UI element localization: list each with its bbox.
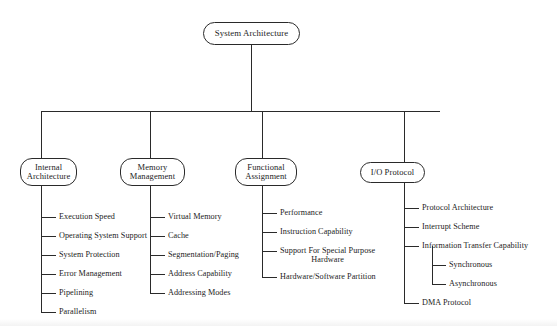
subtick-io-protocol-0 <box>432 265 446 266</box>
node-label: Memory Management <box>130 163 175 181</box>
leaf-label[interactable]: Execution Speed <box>59 212 115 221</box>
node-io-protocol[interactable]: I/O Protocol <box>360 162 425 183</box>
tick-functional-assignment-2 <box>262 251 277 252</box>
leaf-label[interactable]: Pipelining <box>59 288 93 297</box>
node-label: System Architecture <box>215 29 288 39</box>
node-system-architecture[interactable]: System Architecture <box>203 22 300 45</box>
tick-internal-architecture-3 <box>41 274 56 275</box>
tick-functional-assignment-0 <box>262 213 277 214</box>
leaf-label[interactable]: Support For Special Purpose Hardware <box>280 246 375 265</box>
leaf-label[interactable]: Performance <box>280 208 322 217</box>
scan-noise <box>0 319 557 326</box>
tick-io-protocol-3 <box>404 303 419 304</box>
leaf-label[interactable]: Parallelism <box>59 307 96 316</box>
node-label: Internal Architecture <box>27 163 71 181</box>
tick-io-protocol-0 <box>404 208 419 209</box>
sub-leaf-label[interactable]: Asynchronous <box>449 279 497 288</box>
tick-memory-management-3 <box>150 274 165 275</box>
node-label: Functional Assignment <box>245 163 287 181</box>
tick-io-protocol-1 <box>404 227 419 228</box>
leaf-label[interactable]: Cache <box>168 231 189 240</box>
connector-bus-to-io-protocol <box>404 111 405 162</box>
subtick-io-protocol-1 <box>432 284 446 285</box>
tick-internal-architecture-1 <box>41 236 56 237</box>
leaf-label[interactable]: Error Management <box>59 269 122 278</box>
tick-internal-architecture-2 <box>41 255 56 256</box>
trunk-io-protocol <box>404 183 405 303</box>
leaf-label[interactable]: DMA Protocol <box>422 298 471 307</box>
leaf-label[interactable]: Address Capability <box>168 269 232 278</box>
leaf-label[interactable]: Instruction Capability <box>280 227 353 236</box>
connector-root-drop <box>251 45 252 111</box>
leaf-label[interactable]: Hardware/Software Partition <box>280 272 376 281</box>
connector-bus-to-memory-management <box>150 111 151 158</box>
system-architecture-diagram: System Architecture Internal Architectur… <box>0 0 557 326</box>
tick-internal-architecture-5 <box>41 312 56 313</box>
leaf-label[interactable]: Information Transfer Capability <box>422 241 528 250</box>
node-functional-assignment[interactable]: Functional Assignment <box>235 158 297 186</box>
connector-bus-to-functional-assignment <box>262 111 263 158</box>
leaf-label[interactable]: Protocol Architecture <box>422 203 493 212</box>
tick-internal-architecture-0 <box>41 217 56 218</box>
leaf-label[interactable]: Virtual Memory <box>168 212 222 221</box>
trunk-memory-management <box>150 186 151 293</box>
sub-leaf-label[interactable]: Synchronous <box>449 260 492 269</box>
tick-memory-management-0 <box>150 217 165 218</box>
tick-io-protocol-2 <box>404 246 419 247</box>
connector-bus-to-internal-architecture <box>41 111 42 158</box>
tick-functional-assignment-1 <box>262 232 277 233</box>
leaf-label[interactable]: Operating System Support <box>59 231 147 240</box>
tick-internal-architecture-4 <box>41 293 56 294</box>
node-label: I/O Protocol <box>371 168 414 177</box>
node-memory-management[interactable]: Memory Management <box>120 158 185 186</box>
tick-memory-management-4 <box>150 293 165 294</box>
leaf-label[interactable]: Addressing Modes <box>168 288 230 297</box>
node-internal-architecture[interactable]: Internal Architecture <box>20 158 77 186</box>
tick-memory-management-1 <box>150 236 165 237</box>
tick-functional-assignment-3 <box>262 277 277 278</box>
connector-main-bus <box>41 111 440 112</box>
leaf-label[interactable]: Interrupt Scheme <box>422 222 479 231</box>
leaf-label[interactable]: System Protection <box>59 250 120 259</box>
tick-memory-management-2 <box>150 255 165 256</box>
leaf-label[interactable]: Segmentation/Paging <box>168 250 239 259</box>
